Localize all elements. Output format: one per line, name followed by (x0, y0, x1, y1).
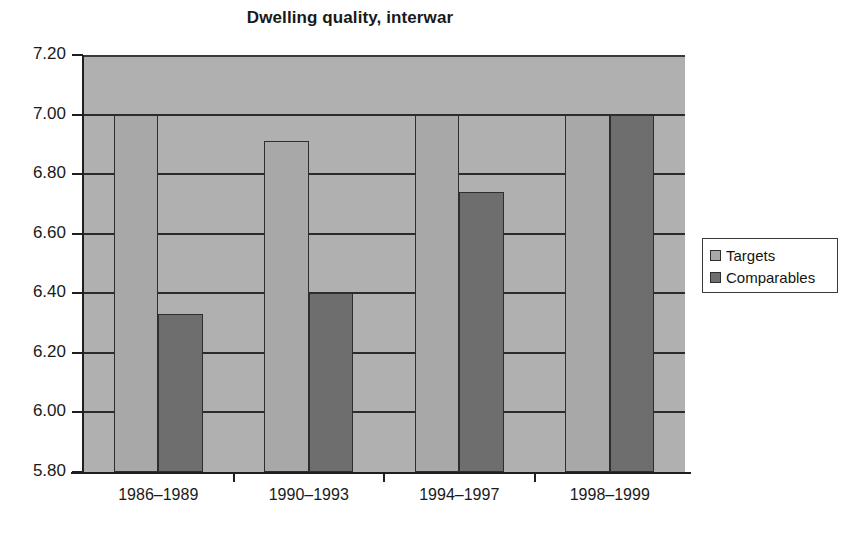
x-axis-line (71, 472, 691, 474)
y-axis-tick (72, 292, 83, 294)
bar-targets-0[interactable] (114, 115, 158, 472)
chart-container: Dwelling quality, interwar 7.207.006.806… (0, 0, 861, 542)
gridline (83, 55, 685, 57)
bar-comparables-0[interactable] (158, 314, 202, 472)
y-axis-tick (72, 114, 83, 116)
y-axis-tick-label: 6.00 (0, 401, 66, 421)
chart-legend: TargetsComparables (702, 238, 838, 293)
bar-targets-2[interactable] (415, 115, 459, 472)
y-axis-tick (72, 233, 83, 235)
y-axis-tick-label: 7.20 (0, 44, 66, 64)
y-axis-tick (72, 54, 83, 56)
bar-comparables-3[interactable] (610, 115, 654, 472)
y-axis-tick (72, 411, 83, 413)
y-axis-tick-label: 6.80 (0, 163, 66, 183)
y-axis-tick (72, 173, 83, 175)
y-axis-tick-label: 6.60 (0, 223, 66, 243)
legend-label: Targets (726, 247, 775, 264)
y-axis-tick (72, 352, 83, 354)
plot-area (83, 55, 685, 472)
legend-item-targets[interactable]: Targets (710, 244, 837, 266)
bar-comparables-1[interactable] (309, 293, 353, 472)
chart-title: Dwelling quality, interwar (0, 8, 700, 28)
bar-targets-3[interactable] (565, 115, 609, 472)
x-axis-tick (534, 473, 536, 482)
y-axis-tick-label: 5.80 (0, 461, 66, 481)
x-axis-tick (233, 473, 235, 482)
x-axis-tick-label: 1986–1989 (83, 486, 233, 504)
x-axis-tick (383, 473, 385, 482)
legend-label: Comparables (726, 269, 815, 286)
bar-comparables-2[interactable] (459, 192, 503, 472)
legend-swatch-comparables-icon (710, 272, 721, 283)
y-axis-tick-label: 6.20 (0, 342, 66, 362)
y-axis-tick (72, 471, 83, 473)
x-axis-tick-label: 1998–1999 (535, 486, 685, 504)
x-axis-tick-label: 1990–1993 (234, 486, 384, 504)
x-axis-tick-label: 1994–1997 (384, 486, 534, 504)
legend-swatch-targets-icon (710, 250, 721, 261)
bar-targets-1[interactable] (264, 141, 308, 472)
y-axis-tick-label: 7.00 (0, 104, 66, 124)
y-axis-tick-label: 6.40 (0, 282, 66, 302)
legend-item-comparables[interactable]: Comparables (710, 266, 837, 288)
